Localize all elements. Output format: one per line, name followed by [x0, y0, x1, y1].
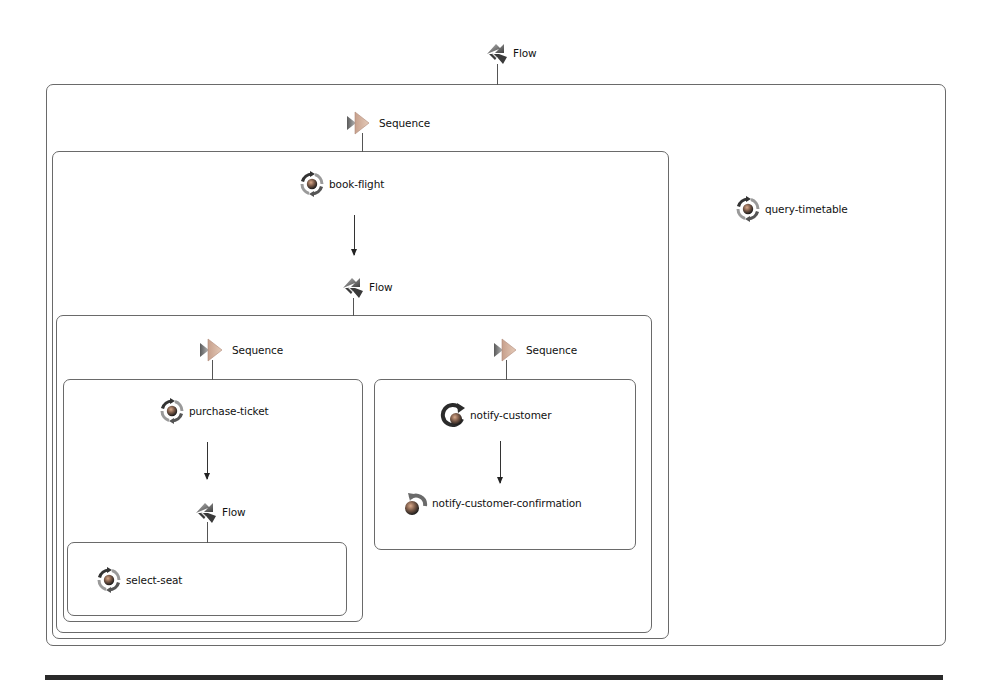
node-inner-flow[interactable]: Flow — [192, 499, 246, 525]
root-flow-connector — [497, 64, 498, 85]
node-purchase-ticket[interactable]: purchase-ticket — [159, 398, 269, 424]
node-outer-sequence[interactable]: Sequence — [345, 110, 430, 136]
flow-icon — [483, 40, 509, 66]
node-query-timetable[interactable]: query-timetable — [735, 196, 848, 222]
node-label: Flow — [222, 506, 246, 518]
node-notify-customer-confirmation[interactable]: notify-customer-confirmation — [402, 490, 582, 516]
mid-flow-connector — [353, 298, 354, 316]
node-right-sequence[interactable]: Sequence — [492, 337, 577, 363]
node-label: query-timetable — [765, 203, 848, 215]
node-label: notify-customer-confirmation — [432, 497, 582, 509]
receive-icon — [402, 490, 428, 516]
node-label: Sequence — [379, 117, 430, 129]
node-label: Sequence — [526, 344, 577, 356]
node-notify-customer[interactable]: notify-customer — [440, 402, 551, 428]
invoke-icon — [159, 398, 185, 424]
arrow-book-flight-to-flow — [354, 215, 355, 255]
invoke-icon — [96, 567, 122, 593]
invoke-icon — [735, 196, 761, 222]
arrow-notify-to-confirmation — [500, 441, 501, 483]
node-book-flight[interactable]: book-flight — [299, 171, 384, 197]
flow-icon — [339, 274, 365, 300]
arrow-purchase-ticket-to-flow — [207, 442, 208, 479]
left-sequence-connector — [212, 360, 213, 380]
node-label: Flow — [369, 281, 393, 293]
sequence-icon — [345, 110, 375, 136]
node-mid-flow[interactable]: Flow — [339, 274, 393, 300]
node-left-sequence[interactable]: Sequence — [198, 337, 283, 363]
node-label: Flow — [513, 47, 537, 59]
sequence-icon — [492, 337, 522, 363]
node-root-flow[interactable]: Flow — [483, 40, 537, 66]
node-label: purchase-ticket — [189, 405, 269, 417]
inner-flow-connector — [207, 522, 208, 543]
sequence-icon — [198, 337, 228, 363]
node-label: Sequence — [232, 344, 283, 356]
node-select-seat[interactable]: select-seat — [96, 567, 182, 593]
flow-icon — [192, 499, 218, 525]
invoke-icon — [299, 171, 325, 197]
node-label: notify-customer — [470, 409, 551, 421]
node-label: select-seat — [126, 574, 182, 586]
right-sequence-connector — [506, 360, 507, 380]
bottom-rule-divider — [45, 675, 943, 680]
reply-icon — [440, 402, 466, 428]
node-label: book-flight — [329, 178, 384, 190]
